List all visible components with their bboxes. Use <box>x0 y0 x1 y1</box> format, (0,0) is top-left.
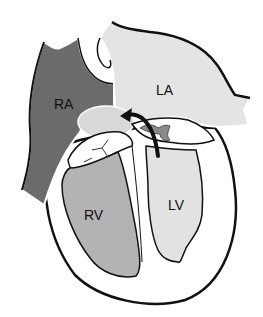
label-rv: RV <box>84 207 104 223</box>
label-ra: RA <box>54 96 74 112</box>
label-la: LA <box>156 82 174 98</box>
heart-diagram: RA LA RV LV <box>0 0 263 317</box>
label-lv: LV <box>168 197 185 213</box>
